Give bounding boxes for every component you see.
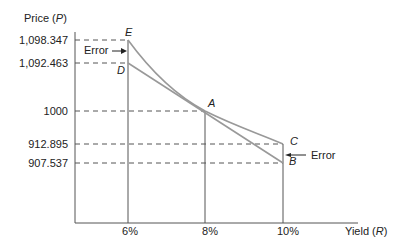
point-label-A: A (207, 97, 215, 109)
point-label-E: E (125, 26, 133, 38)
point-label-B: B (289, 155, 296, 167)
error-annotation-right: Error (311, 149, 336, 161)
x-axis-title: Yield (R) (345, 225, 387, 237)
price-yield-chart: 1,098.347 1,092.463 1000 912.895 907.537… (0, 0, 408, 250)
y-tick-label: 1,092.463 (19, 57, 68, 69)
point-label-D: D (117, 64, 125, 76)
y-tick-label: 1000 (44, 105, 68, 117)
y-tick-label: 907.537 (28, 157, 68, 169)
arrow-right-icon (121, 48, 127, 54)
error-annotation-left: Error (84, 44, 109, 56)
y-tick-label: 912.895 (28, 138, 68, 150)
y-axis-title: Price (P) (24, 12, 67, 24)
x-tick-label: 6% (122, 225, 138, 237)
y-tick-label: 1,098.347 (19, 34, 68, 46)
x-tick-label: 8% (202, 225, 218, 237)
x-tick-label: 10% (277, 225, 299, 237)
point-label-C: C (290, 135, 298, 147)
